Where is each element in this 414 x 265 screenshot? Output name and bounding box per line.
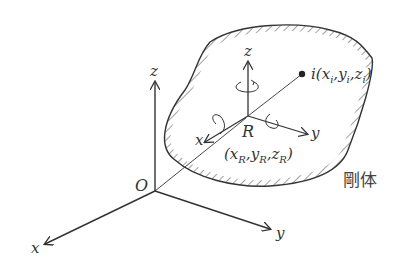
rotation-y-icon [266,114,278,128]
diagram-canvas [0,0,414,265]
world-z-label: z [150,64,158,79]
world-origin-label: O [135,178,148,194]
body-y-label: y [311,126,319,141]
world-x-label: x [31,241,39,256]
body-x-label: x [195,133,203,148]
rigid-body-label: 剛体 [343,172,377,189]
point-i-label: i(xi,yi,zi) [311,67,372,85]
vector-R-to-i [248,74,302,116]
body-frame [205,62,307,142]
world-x-axis [45,191,155,244]
body-y-axis [248,116,307,134]
body-origin-label: R [242,124,254,140]
world-y-label: y [276,226,284,241]
body-z-label: z [244,44,252,59]
rotation-x-icon [213,115,225,134]
rotation-z-icon [236,82,258,92]
point-i-dot [299,71,305,77]
body-origin-coords: (xR,yR,zR) [224,147,293,165]
world-y-axis [155,191,270,229]
